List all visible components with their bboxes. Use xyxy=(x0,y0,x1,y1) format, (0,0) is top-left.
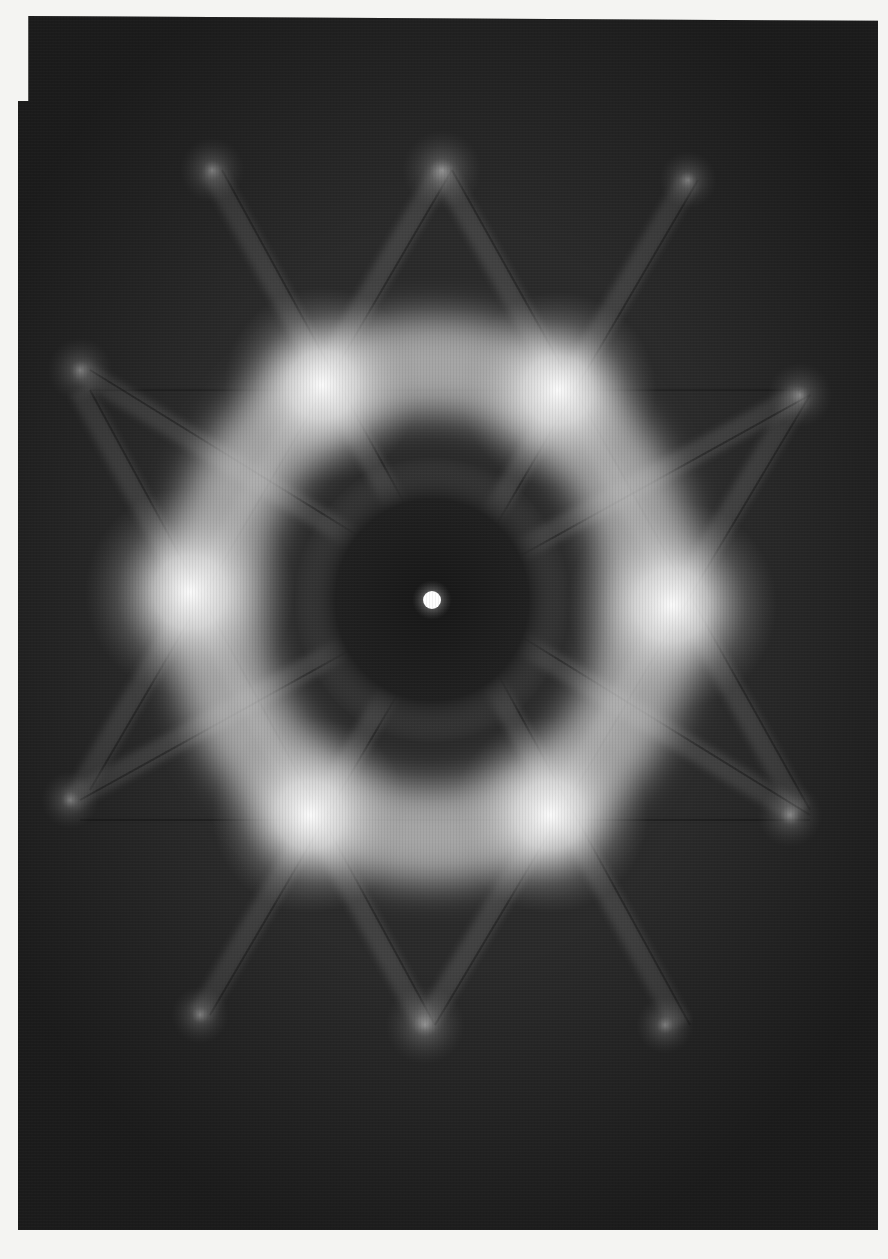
outer-diffraction-spot xyxy=(768,363,833,428)
inner-diffraction-spot xyxy=(452,717,648,913)
central-beam-spot xyxy=(423,591,441,609)
inner-diffraction-spot xyxy=(212,717,408,913)
inner-diffraction-spot xyxy=(85,487,295,697)
diffraction-photo xyxy=(18,16,878,1230)
outer-diffraction-spot xyxy=(48,338,113,403)
outer-diffraction-spot xyxy=(41,771,99,829)
outer-diffraction-spot xyxy=(659,151,717,209)
outer-diffraction-spot xyxy=(385,985,464,1064)
inner-diffraction-spot xyxy=(460,292,656,488)
outer-diffraction-spot xyxy=(636,996,694,1054)
outer-diffraction-spot xyxy=(180,138,245,203)
outer-diffraction-spot xyxy=(758,783,823,848)
inner-diffraction-spot xyxy=(567,500,777,710)
outer-diffraction-spot xyxy=(171,986,229,1044)
outer-diffraction-spot xyxy=(402,130,481,209)
inner-diffraction-spot xyxy=(224,287,420,483)
kikuchi-pattern xyxy=(18,16,878,1230)
